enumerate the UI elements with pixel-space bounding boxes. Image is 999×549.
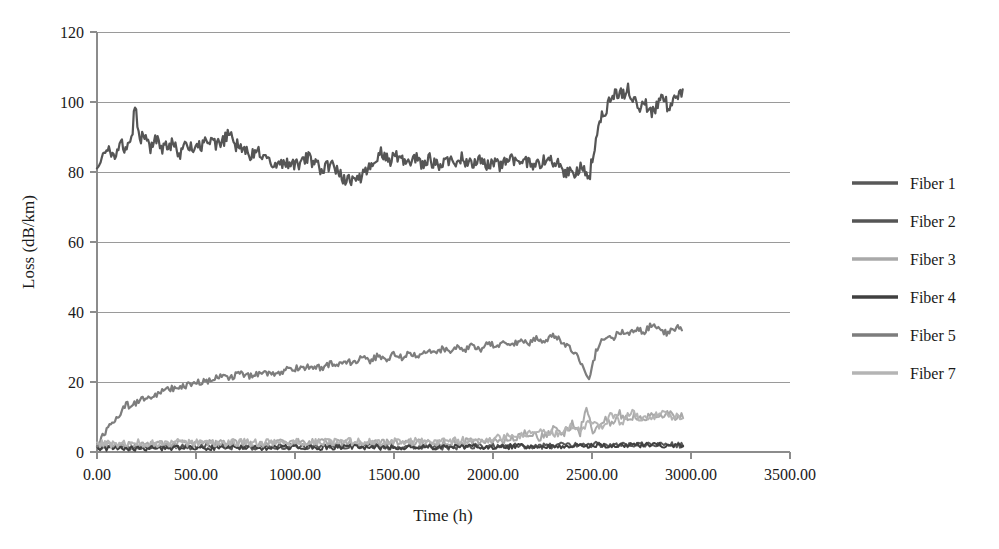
x-tick-label-2000: 2000.00 [467, 466, 519, 483]
chart-legend: Fiber 1Fiber 2Fiber 3Fiber 4Fiber 5Fiber… [852, 175, 956, 382]
y-axis-title: Loss (dB/km) [19, 195, 38, 289]
legend-label: Fiber 1 [910, 175, 956, 192]
gridlines [97, 32, 790, 382]
legend-item-fiber-1[interactable]: Fiber 1 [852, 175, 956, 192]
y-tick-labels: 020406080100120 [60, 24, 84, 461]
legend-item-fiber-2[interactable]: Fiber 2 [852, 213, 956, 230]
x-tick-label-500: 500.00 [174, 466, 218, 483]
legend-label: Fiber 4 [910, 289, 956, 306]
legend-label: Fiber 7 [910, 365, 956, 382]
series-line-fiber-5 [97, 324, 682, 447]
y-tick-label-60: 60 [68, 234, 84, 251]
y-tick-marks [90, 32, 97, 452]
chart-figure: 0.00500.001000.001500.002000.002500.0030… [0, 0, 999, 549]
y-tick-label-20: 20 [68, 374, 84, 391]
x-tick-label-3000: 3000.00 [665, 466, 717, 483]
x-tick-labels: 0.00500.001000.001500.002000.002500.0030… [83, 466, 816, 483]
x-tick-label-2500: 2500.00 [566, 466, 618, 483]
legend-item-fiber-7[interactable]: Fiber 7 [852, 365, 956, 382]
legend-item-fiber-3[interactable]: Fiber 3 [852, 251, 956, 268]
y-tick-label-40: 40 [68, 304, 84, 321]
line-chart: 0.00500.001000.001500.002000.002500.0030… [0, 0, 999, 549]
x-tick-label-1000: 1000.00 [269, 466, 321, 483]
y-tick-label-100: 100 [60, 94, 84, 111]
x-tick-label-1500: 1500.00 [368, 466, 420, 483]
y-tick-label-80: 80 [68, 164, 84, 181]
series-line-fiber-2 [97, 84, 683, 186]
legend-item-fiber-5[interactable]: Fiber 5 [852, 327, 956, 344]
y-tick-label-120: 120 [60, 24, 84, 41]
x-tick-label-0: 0.00 [83, 466, 111, 483]
legend-label: Fiber 3 [910, 251, 956, 268]
legend-label: Fiber 5 [910, 327, 956, 344]
legend-label: Fiber 2 [910, 213, 956, 230]
x-tick-label-3500: 3500.00 [764, 466, 816, 483]
y-tick-label-0: 0 [76, 444, 84, 461]
data-series-group [97, 84, 683, 451]
x-axis-title: Time (h) [413, 506, 472, 525]
x-tick-marks [97, 452, 790, 459]
legend-item-fiber-4[interactable]: Fiber 4 [852, 289, 956, 306]
